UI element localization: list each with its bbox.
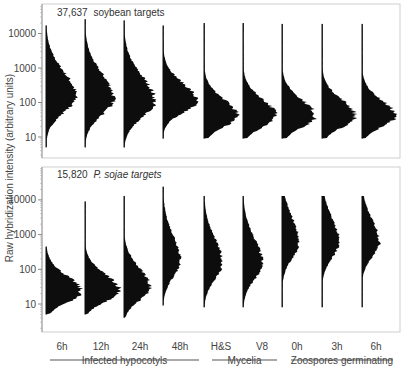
group-label: Mycelia: [228, 355, 262, 366]
histogram-hs: [204, 23, 240, 138]
category-label: V8: [256, 341, 269, 352]
group-label: Zoospores germinating: [291, 355, 393, 366]
x-category-labels: 6h12h24h48hH&SV80h3h6h: [56, 341, 381, 352]
group-label: Infected hypocotyls: [82, 355, 168, 366]
histogram-48h: [163, 26, 198, 139]
histogram-24h: [124, 20, 156, 147]
category-label: 0h: [291, 341, 302, 352]
category-label: 3h: [331, 341, 342, 352]
category-label: 12h: [93, 341, 110, 352]
histogram-v8: [243, 196, 264, 307]
panel-psojae: 15,820 P. sojae targets 10100100010000: [8, 167, 400, 332]
panel-label-soybean: 37,637 soybean targets: [57, 7, 165, 18]
histogram-hs: [204, 196, 223, 307]
y-tick-label: 100: [19, 264, 36, 275]
histogram-24h: [124, 196, 152, 318]
histograms: [46, 187, 381, 318]
category-label: 48h: [172, 341, 189, 352]
histogram-12h: [85, 19, 116, 147]
x-group-labels: Infected hypocotylsMyceliaZoospores germ…: [50, 355, 393, 366]
category-label: 6h: [370, 341, 381, 352]
histogram-0h: [282, 196, 300, 307]
histogram-12h: [85, 201, 122, 314]
histogram-0h: [282, 24, 317, 139]
y-tick-label: 100: [19, 97, 36, 108]
y-tick-label: 10000: [8, 194, 36, 205]
panel-soybean: 37,637 soybean targets 10100100010000: [8, 4, 400, 158]
y-tick-label: 10: [25, 132, 37, 143]
y-tick-label: 1000: [14, 229, 37, 240]
histogram-3h: [322, 24, 357, 139]
histogram-3h: [322, 196, 340, 307]
histogram-figure: Raw hybridization intensity (arbitrary u…: [0, 0, 401, 368]
histogram-6h: [46, 26, 78, 148]
histogram-6h: [362, 196, 381, 307]
y-tick-label: 10000: [8, 28, 36, 39]
histogram-48h: [163, 187, 182, 306]
category-label: 24h: [132, 341, 149, 352]
histograms: [46, 19, 397, 147]
histogram-6h: [362, 24, 397, 139]
panel-frame: [42, 167, 400, 332]
panel-label-psojae: 15,820 P. sojae targets: [57, 169, 162, 180]
y-tick-label: 10: [25, 299, 37, 310]
y-tick-label: 1000: [14, 63, 37, 74]
histogram-v8: [243, 23, 278, 138]
histogram-6h: [46, 247, 83, 315]
category-label: 6h: [56, 341, 67, 352]
category-label: H&S: [211, 341, 232, 352]
